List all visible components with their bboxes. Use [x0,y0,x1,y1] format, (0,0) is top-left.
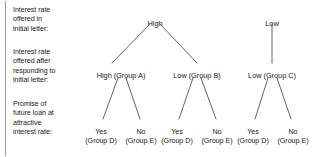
tree-edge [277,78,291,119]
tree-edge [112,24,150,63]
tree-node-high-root: High [148,19,163,28]
tree-edge [160,24,197,63]
leaf-answer: Yes [161,127,193,136]
leaf-answer: No [125,127,156,136]
leaf-group: (Group E) [277,136,308,145]
leaf-answer: No [277,127,308,136]
leaf-group: (Group E) [201,136,232,145]
tree-node-leaf-4: No(Group E) [201,127,232,145]
tree-node-high-group-a: High (Group A) [97,71,146,80]
tree-edge [179,78,193,119]
tree-edge [201,78,216,119]
tree-node-low-root: Low [265,19,278,28]
leaf-group: (Group D) [237,136,269,145]
tree-node-leaf-1: Yes(Group D) [85,127,117,145]
decision-tree-figure: Interest rate offered in initial letter:… [0,0,326,157]
tree-node-leaf-2: No(Group E) [125,127,156,145]
leaf-group: (Group D) [85,136,117,145]
tree-node-low-group-c: Low (Group C) [248,71,296,80]
leaf-answer: Yes [85,127,117,136]
tree-node-leaf-3: Yes(Group D) [161,127,193,145]
tree-edge [103,78,118,119]
tree-edge [255,78,268,119]
leaf-answer: Yes [237,127,269,136]
leaf-answer: No [201,127,232,136]
tree-node-leaf-6: No(Group E) [277,127,308,145]
tree-edge [126,78,140,119]
tree-node-leaf-5: Yes(Group D) [237,127,269,145]
leaf-group: (Group D) [161,136,193,145]
leaf-group: (Group E) [125,136,156,145]
tree-node-low-group-b: Low (Group B) [173,71,220,80]
